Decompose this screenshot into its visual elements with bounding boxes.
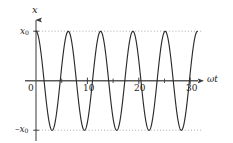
x-tick-label-0: 0 <box>28 84 34 93</box>
x-tick-label-30: 30 <box>186 84 197 93</box>
plot-canvas <box>0 0 233 143</box>
y-tick-label-negative-amplitude: –x0 <box>15 125 28 134</box>
x-axis-label: ωt <box>207 75 218 84</box>
x-tick-label-10: 10 <box>83 84 94 93</box>
oscillation-figure: x ωt x0 –x0 0 10 20 30 <box>0 0 233 143</box>
x-tick-label-20: 20 <box>134 84 145 93</box>
y-axis-label: x <box>32 5 38 15</box>
y-tick-label-positive-amplitude: x0 <box>20 27 29 36</box>
